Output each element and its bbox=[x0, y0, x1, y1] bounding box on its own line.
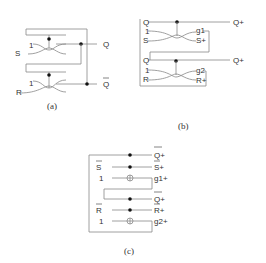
output-q: Q bbox=[103, 40, 109, 49]
junction-dot bbox=[128, 165, 132, 169]
output-g1: g1 bbox=[196, 26, 205, 35]
output-q-plus-bottom: Q+ bbox=[233, 56, 244, 65]
output-q-plus-top: Q+ bbox=[233, 18, 244, 27]
junction-dot bbox=[85, 82, 89, 86]
junction-dot bbox=[128, 153, 132, 157]
input-r: R bbox=[16, 88, 22, 97]
feedback-wire-top bbox=[26, 29, 87, 84]
output-q-plus-bar-bottom: Q+ bbox=[154, 195, 165, 204]
input-s-bar: S bbox=[96, 163, 101, 172]
input-one-bottom: 1 bbox=[29, 79, 34, 88]
input-q-bottom: Q bbox=[143, 56, 149, 65]
input-one-top: 1 bbox=[99, 174, 104, 183]
input-s: S bbox=[143, 36, 148, 45]
switch-crossover-top-1 bbox=[148, 31, 196, 38]
output-q-bar: Q bbox=[103, 80, 109, 89]
output-s-plus-bar: S+ bbox=[154, 163, 164, 172]
output-s-plus: S+ bbox=[196, 36, 206, 45]
switch-crossover-bottom-2 bbox=[148, 74, 196, 80]
figure-b: Q 1 S g1 S+ Q+ Q 1 R g2 R+ Q+ (b) bbox=[140, 18, 244, 131]
output-g2: g2 bbox=[196, 66, 205, 75]
junction-dot bbox=[47, 73, 51, 77]
circuit-diagram: 1 S Q 1 R Q (a) Q 1 S g1 S+ Q+ Q 1 R g bbox=[0, 0, 266, 263]
switch-crossover-bottom-1 bbox=[148, 70, 196, 77]
caption-b: (b) bbox=[178, 121, 189, 131]
figure-a: 1 S Q 1 R Q (a) bbox=[15, 29, 109, 111]
input-one-bottom: 1 bbox=[99, 217, 104, 226]
g1-feedback-wire bbox=[104, 178, 152, 199]
input-r-bar: R bbox=[96, 206, 102, 215]
output-g2-plus: g2+ bbox=[154, 217, 168, 226]
junction-dot bbox=[47, 37, 51, 41]
switch-crossover-top-2 bbox=[28, 48, 66, 54]
switch-crossover-top-1 bbox=[33, 44, 66, 50]
input-one-bottom: 1 bbox=[145, 66, 150, 75]
input-one-top: 1 bbox=[29, 41, 34, 50]
caption-a: (a) bbox=[47, 101, 57, 111]
switch-crossover-bottom-2 bbox=[20, 86, 66, 93]
output-q-plus-bar-top: Q+ bbox=[154, 151, 165, 160]
input-s: S bbox=[15, 49, 20, 58]
caption-c: (c) bbox=[124, 246, 134, 256]
input-one-top: 1 bbox=[145, 27, 150, 36]
figure-c: Q+ S S+ 1 g1+ Q+ R R+ 1 g2+ (c) bbox=[89, 147, 168, 256]
output-r-plus: R+ bbox=[196, 76, 207, 85]
junction-dot bbox=[128, 197, 132, 201]
input-q-top: Q bbox=[143, 18, 149, 27]
output-g1-plus: g1+ bbox=[154, 174, 168, 183]
output-r-plus-bar: R+ bbox=[154, 206, 165, 215]
input-r: R bbox=[143, 75, 149, 84]
junction-dot bbox=[128, 208, 132, 212]
